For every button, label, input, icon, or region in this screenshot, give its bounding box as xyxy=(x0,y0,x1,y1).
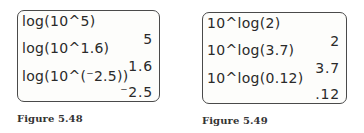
entry-expression: 10^log(3.7) xyxy=(207,42,294,58)
calculator-screen: 10^log(2) 2 10^log(3.7) 3.7 10^log(0.12)… xyxy=(202,12,347,104)
entry-result: 1.6 xyxy=(128,58,153,74)
figure-caption: Figure 5.49 xyxy=(202,115,268,126)
entry-result: ⁻2.5 xyxy=(120,84,153,100)
entry-expression: log(10^1.6) xyxy=(22,40,109,56)
entry-expression: 10^log(0.12) xyxy=(207,70,304,86)
calculator-screen: log(10^5) 5 log(10^1.6) 1.6 log(10^(⁻2.5… xyxy=(17,10,160,102)
entry-result: 3.7 xyxy=(315,60,340,76)
entry-result: 5 xyxy=(143,31,153,47)
entry-expression: log(10^5) xyxy=(22,13,95,29)
figure-5-48: log(10^5) 5 log(10^1.6) 1.6 log(10^(⁻2.5… xyxy=(17,10,160,102)
entry-result: 2 xyxy=(330,33,340,49)
entry-result: .12 xyxy=(315,86,340,102)
figure-5-49: 10^log(2) 2 10^log(3.7) 3.7 10^log(0.12)… xyxy=(202,12,347,104)
figure-caption: Figure 5.48 xyxy=(17,113,83,124)
entry-expression: log(10^(⁻2.5)) xyxy=(22,68,129,84)
entry-expression: 10^log(2) xyxy=(207,15,280,31)
